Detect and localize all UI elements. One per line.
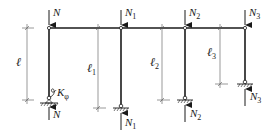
- reaction-label-N3: N3: [249, 90, 261, 105]
- column-1-top-joint: [119, 26, 122, 29]
- column-2: N2 N2 ℓ2: [150, 6, 201, 122]
- column-3: N3 N3 ℓ3: [207, 6, 261, 106]
- length-label-l1: ℓ1: [87, 61, 96, 77]
- hinge-icon: [243, 80, 247, 84]
- load-label-N1: N1: [124, 6, 136, 21]
- load-label-N2: N2: [188, 6, 200, 21]
- frame-diagram: N Kφ N ℓ N1: [0, 0, 280, 138]
- column-0: N Kφ N ℓ: [16, 6, 69, 120]
- length-label-l3: ℓ3: [207, 45, 216, 61]
- hinge-icon: [183, 96, 187, 100]
- reaction-label-N2: N2: [189, 107, 201, 122]
- reaction-label-N1: N1: [124, 116, 136, 131]
- column-2-top-joint: [183, 26, 186, 29]
- reaction-label-N: N: [52, 108, 61, 120]
- rotational-spring-icon: [50, 89, 56, 97]
- column-0-top-joint: [47, 26, 50, 29]
- load-label-N: N: [52, 6, 61, 18]
- column-1: N1 N1 ℓ1: [87, 6, 136, 131]
- hinge-icon: [119, 104, 123, 108]
- length-label-l: ℓ: [16, 55, 21, 69]
- length-label-l2: ℓ2: [150, 55, 159, 71]
- spring-label: Kφ: [56, 86, 69, 101]
- column-3-top-joint: [243, 26, 246, 29]
- load-label-N3: N3: [248, 6, 260, 21]
